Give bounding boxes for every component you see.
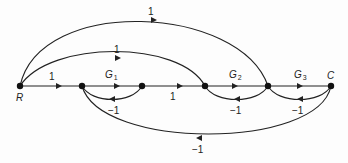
gain-g1-subscript: 1 (114, 74, 118, 81)
gain-g1: G1 (105, 70, 118, 81)
node-n2 (79, 83, 85, 89)
branch-n3-n2-feedback (82, 86, 142, 100)
arrow-n3-n4 (177, 83, 183, 89)
gain-c-n5-feedback: −1 (292, 106, 303, 116)
gain-g2-subscript: 2 (238, 74, 242, 81)
arrow-n4-n5 (232, 83, 238, 89)
arrow-n2-n3 (114, 83, 120, 89)
arrow-n3-n2 (109, 96, 115, 102)
arrow-r-n2 (56, 83, 62, 89)
gain-c-n2-feedback: −1 (192, 145, 203, 155)
node-c (328, 83, 334, 89)
arrow-c-n2 (196, 135, 202, 141)
node-n3 (139, 83, 145, 89)
gain-n3-n4: 1 (170, 92, 176, 102)
node-r (17, 83, 23, 89)
gain-g3: G3 (294, 70, 307, 81)
gain-r-n5-feedforward: 1 (148, 7, 154, 17)
arrow-n5-n4 (234, 96, 240, 102)
node-label-c: C (327, 71, 334, 81)
gain-n3-n2-feedback: −1 (108, 106, 119, 116)
gain-r-n2: 1 (49, 72, 55, 82)
arrow-n5-c (297, 83, 303, 89)
node-label-r: R (16, 93, 23, 103)
gain-n5-n4-feedback: −1 (230, 106, 241, 116)
gain-g3-subscript: 3 (303, 74, 307, 81)
gain-g2: G2 (229, 70, 242, 81)
gain-r-n4-feedforward: 1 (114, 45, 120, 55)
node-n5 (265, 83, 271, 89)
branch-c-n5-feedback (268, 86, 331, 100)
gain-g3-symbol: G (294, 69, 302, 80)
arrow-r-n4 (115, 55, 121, 61)
signal-flow-graph: R C 1 G1 1 G2 G3 −1 −1 −1 −1 1 1 (0, 0, 348, 163)
arrowheads (56, 17, 303, 141)
gain-g1-symbol: G (105, 69, 113, 80)
arrow-c-n5 (297, 96, 303, 102)
gain-g2-symbol: G (229, 69, 237, 80)
node-n4 (202, 83, 208, 89)
branch-n5-n4-feedback (205, 86, 268, 100)
